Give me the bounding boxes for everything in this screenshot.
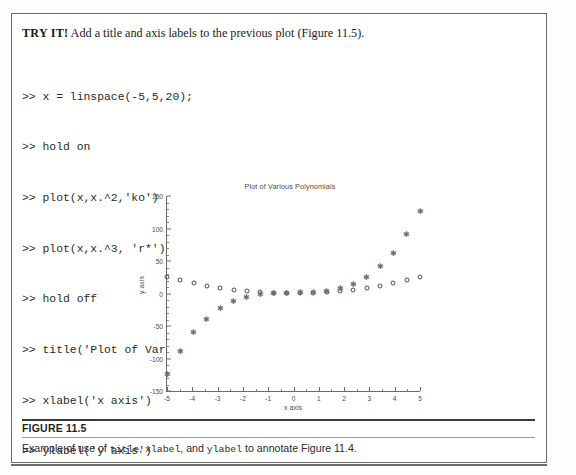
x-tick-label: 0 [292,391,296,402]
plot-title: Plot of Various Polynomials [140,182,440,191]
data-point-star: ✱ [243,294,250,302]
data-point-star: ✱ [403,231,410,239]
data-point-star: ✱ [257,291,264,299]
x-minor-tick [281,389,282,391]
x-minor-tick [230,389,231,391]
data-point-star: ✱ [377,263,384,271]
data-point-star: ✱ [217,305,224,313]
caption-code-ylabel: ylabel [207,444,242,455]
x-minor-tick [331,389,332,391]
y-minor-tick [167,287,169,288]
data-point-star: ✱ [337,285,344,293]
y-minor-tick [167,235,169,236]
caption-text-3: , and [180,442,207,454]
y-tick-label: 50 [156,258,167,265]
y-tick-mark [167,228,171,229]
data-point-star: ✱ [164,371,171,379]
y-tick-label: 150 [152,193,167,200]
y-tick-mark [167,358,171,359]
y-minor-tick [167,300,169,301]
data-point-circle [364,286,369,291]
x-axis-label: x axis [166,404,420,411]
x-minor-tick [256,389,257,391]
x-tick-label: 5 [418,391,422,402]
plot-axes: -150-100-50050100150-5-4-3-2-1012345✱✱✱✱… [166,196,420,392]
y-minor-tick [167,281,169,282]
y-tick-label: -50 [153,323,167,330]
try-it-text: Add a title and axis labels to the previ… [68,26,364,40]
page-root: TRY IT! Add a title and axis labels to t… [0,0,576,475]
y-tick-label: 0 [159,290,167,297]
y-minor-tick [167,248,169,249]
x-tick-label: -2 [240,391,246,402]
x-tick-label: -4 [189,391,195,402]
data-point-circle [191,281,196,286]
figure-plot: Plot of Various Polynomials y axis -150-… [140,178,440,418]
caption-code-xlabel: xlabel [145,444,180,455]
y-minor-tick [167,203,169,204]
y-minor-tick [167,209,169,210]
y-tick-label: 100 [152,225,167,232]
x-tick-label: 1 [317,391,321,402]
caption-code-title: title [110,444,139,455]
data-point-circle [218,286,223,291]
data-point-star: ✱ [270,290,277,298]
y-minor-tick [167,268,169,269]
y-minor-tick [167,255,169,256]
code-line: >> hold on [22,139,422,156]
x-minor-tick [407,389,408,391]
data-point-circle [231,287,236,292]
x-tick-label: 3 [368,391,372,402]
figure-number: FIGURE 11.5 [22,422,87,434]
y-tick-label: -100 [150,355,167,362]
y-minor-tick [167,346,169,347]
y-minor-tick [167,352,169,353]
caption-text-1: Example of use of [22,442,110,454]
y-minor-tick [167,385,169,386]
code-line: >> x = linspace(-5,5,20); [22,89,422,106]
x-minor-tick [357,389,358,391]
x-minor-tick [205,389,206,391]
data-point-star: ✱ [417,208,424,216]
y-tick-mark [167,293,171,294]
y-minor-tick [167,333,169,334]
y-minor-tick [167,339,169,340]
data-point-star: ✱ [203,316,210,324]
y-tick-mark [167,326,171,327]
x-tick-label: 2 [342,391,346,402]
y-minor-tick [167,307,169,308]
data-point-circle [204,283,209,288]
data-point-circle [404,278,409,283]
caption-rule-top [22,419,535,421]
data-point-star: ✱ [297,289,304,297]
try-it-paragraph: TRY IT! Add a title and axis labels to t… [22,26,522,41]
x-minor-tick [180,389,181,391]
y-minor-tick [167,320,169,321]
data-point-star: ✱ [230,298,237,306]
data-point-star: ✱ [177,348,184,356]
data-point-star: ✱ [390,250,397,258]
y-minor-tick [167,313,169,314]
caption-rule-middle [22,437,535,438]
data-point-circle [165,275,170,280]
x-tick-label: 4 [393,391,397,402]
caption-text-4: to annotate Figure 11.4. [242,442,357,454]
data-point-circle [418,275,423,280]
y-minor-tick [167,365,169,366]
data-point-star: ✱ [190,329,197,337]
x-minor-tick [306,389,307,391]
y-minor-tick [167,222,169,223]
data-point-circle [378,283,383,288]
figure-caption: Example of use of title, xlabel, and yla… [22,441,535,456]
x-tick-label: -3 [215,391,221,402]
try-it-label: TRY IT! [22,26,68,40]
y-tick-mark [167,196,171,197]
y-minor-tick [167,242,169,243]
x-minor-tick [382,389,383,391]
data-point-circle [178,278,183,283]
y-axis-label: y axis [138,276,145,294]
caption-rule-bottom [11,464,547,466]
data-point-star: ✱ [363,274,370,282]
x-tick-label: -1 [265,391,271,402]
data-point-circle [391,281,396,286]
